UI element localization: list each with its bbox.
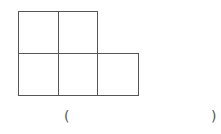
grid-cell-r1-c2 [97,53,139,96]
grid-cell-r0-c1 [58,11,98,54]
grid-cell-r1-c1 [58,53,98,96]
left-parenthesis: ( [64,109,69,123]
answer-value[interactable] [75,109,210,125]
right-parenthesis: ) [211,109,216,123]
grid-cell-r0-c0 [18,11,59,54]
grid-cell-r1-c0 [18,53,59,96]
